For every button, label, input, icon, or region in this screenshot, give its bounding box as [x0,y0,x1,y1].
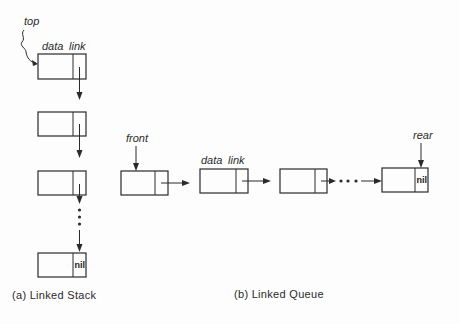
stack-caption: (a) Linked Stack [12,289,96,301]
top-pointer-arrowhead [32,60,38,66]
queue-link-field-label: link [228,154,245,166]
stack-node-3 [38,171,86,195]
diagram-canvas: top data link [0,0,459,324]
arrowhead [263,178,271,184]
arrowhead [77,196,83,204]
arrowhead [374,178,382,184]
stack-link-field-label: link [69,40,86,52]
stack-data-field-label: data [42,40,63,52]
linked-stack: top data link [12,15,96,301]
stack-nil-value: nil [75,260,86,270]
top-pointer-curve [21,30,36,63]
stack-ellipsis [78,208,81,225]
stack-node-2 [38,112,86,136]
arrowhead [77,244,83,252]
linked-queue: front data link [121,129,434,300]
queue-nil-value: nil [417,175,428,185]
front-pointer-label: front [126,132,149,144]
queue-ellipsis [339,179,357,182]
top-pointer-label: top [24,15,39,27]
front-pointer-arrowhead [133,163,139,171]
queue-node-4: nil [382,168,428,192]
rear-pointer-label: rear [413,129,434,141]
queue-node-1 [121,171,168,195]
linked-structures-diagram: top data link [0,0,459,324]
queue-node-2 [200,169,248,193]
stack-node-4: nil [38,253,86,277]
arrowhead [182,180,190,186]
arrowhead [329,178,336,184]
stack-node-1 [38,54,86,79]
arrowhead [77,92,83,100]
arrowhead [77,150,83,158]
queue-node-3 [280,169,327,193]
rear-pointer-arrowhead [418,160,424,168]
queue-caption: (b) Linked Queue [234,288,324,300]
queue-data-field-label: data [201,154,222,166]
